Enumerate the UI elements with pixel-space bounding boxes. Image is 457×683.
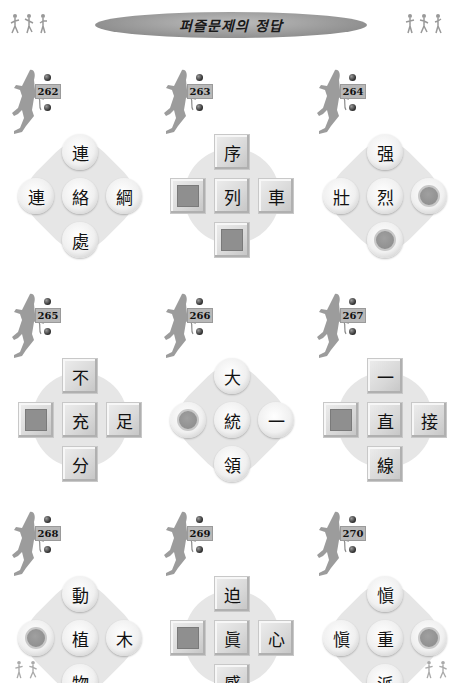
cell-center: 烈 <box>367 178 403 214</box>
dancer-icon <box>424 660 434 680</box>
hanja-character: 眞 <box>224 626 241 651</box>
bullet-dot-icon <box>349 328 356 335</box>
hanja-character: 心 <box>268 626 285 651</box>
bullet-dot-icon <box>44 546 51 553</box>
hanja-character: 足 <box>116 408 133 433</box>
bullet-dot-icon <box>44 74 51 81</box>
bullet-dot-icon <box>349 298 356 305</box>
hanja-character: 直 <box>377 408 394 433</box>
hanja-character: 迫 <box>224 582 241 607</box>
puzzle-264: 264强壯烈 <box>313 66 457 276</box>
hanja-character: 感 <box>224 670 241 683</box>
hanja-character: 强 <box>377 140 394 165</box>
leaning-person-icon <box>160 290 200 362</box>
dancer-icon <box>438 660 448 680</box>
bullet-dot-icon <box>196 74 203 81</box>
dancer-icon <box>10 13 20 35</box>
hanja-character: 大 <box>224 364 241 389</box>
puzzle-board: 强壯烈 <box>323 134 447 258</box>
cell-center: 眞 <box>214 620 250 656</box>
cell-top: 連 <box>62 134 98 170</box>
cell-right: 一 <box>258 402 294 438</box>
hanja-character: 分 <box>72 452 89 477</box>
blank-answer-square <box>330 409 352 431</box>
blank-answer-circle <box>418 185 440 207</box>
bullet-dot-icon <box>196 298 203 305</box>
hanja-character: 序 <box>224 140 241 165</box>
cell-right: 心 <box>258 620 294 656</box>
puzzle-262: 262連連絡綱處 <box>8 66 158 276</box>
cell-left: 愼 <box>323 620 359 656</box>
bullet-dot-icon <box>196 328 203 335</box>
cell-bottom: 分 <box>62 446 98 482</box>
blank-answer-circle <box>418 627 440 649</box>
cell-right: 足 <box>106 402 142 438</box>
puzzle-266: 266大統一領 <box>160 290 310 500</box>
leaning-person-icon <box>8 66 48 138</box>
cell-right: 接 <box>411 402 447 438</box>
puzzle-265: 265不充足分 <box>8 290 158 500</box>
hanja-character: 列 <box>224 184 241 209</box>
hanja-character: 壯 <box>333 184 350 209</box>
cell-right: 車 <box>258 178 294 214</box>
hanja-character: 一 <box>268 408 285 433</box>
hanja-character: 充 <box>72 408 89 433</box>
cell-center: 列 <box>214 178 250 214</box>
cell-center: 充 <box>62 402 98 438</box>
cell-left <box>18 402 54 438</box>
dancer-icon <box>24 13 34 35</box>
cell-left <box>170 178 206 214</box>
puzzle-board: 序列車 <box>170 134 294 258</box>
hanja-character: 物 <box>72 670 89 683</box>
decorative-figures-bottom-left <box>14 660 38 680</box>
hanja-character: 綱 <box>116 184 133 209</box>
leaning-person-icon <box>160 66 200 138</box>
cell-bottom <box>214 222 250 258</box>
blank-answer-square <box>177 185 199 207</box>
cell-left: 連 <box>18 178 54 214</box>
cell-top: 動 <box>62 576 98 612</box>
cell-left <box>18 620 54 656</box>
blank-answer-square <box>221 229 243 251</box>
hanja-character: 植 <box>72 626 89 651</box>
hanja-character: 連 <box>72 140 89 165</box>
puzzle-269: 269迫眞心感 <box>160 508 310 683</box>
dancer-icon <box>433 13 443 35</box>
cell-center: 統 <box>214 402 250 438</box>
cell-bottom <box>367 222 403 258</box>
cell-left <box>323 402 359 438</box>
puzzle-number-badge: 267 <box>340 308 366 323</box>
hanja-character: 連 <box>28 184 45 209</box>
hanja-character: 木 <box>116 626 133 651</box>
puzzle-board: 一直接線 <box>323 358 447 482</box>
cell-top: 迫 <box>214 576 250 612</box>
puzzle-267: 267一直接線 <box>313 290 457 500</box>
puzzle-board: 大統一領 <box>170 358 294 482</box>
blank-answer-circle <box>25 627 47 649</box>
leaning-person-icon <box>8 508 48 580</box>
cell-top: 序 <box>214 134 250 170</box>
dancer-icon <box>14 660 24 680</box>
cell-bottom: 領 <box>214 446 250 482</box>
hanja-character: 愼 <box>333 626 350 651</box>
cell-right <box>411 178 447 214</box>
bullet-dot-icon <box>196 104 203 111</box>
cell-top: 强 <box>367 134 403 170</box>
puzzle-number-badge: 263 <box>187 84 213 99</box>
hanja-character: 接 <box>421 408 438 433</box>
cell-center: 重 <box>367 620 403 656</box>
dancer-icon <box>28 660 38 680</box>
bullet-dot-icon <box>44 516 51 523</box>
leaning-person-icon <box>160 508 200 580</box>
bullet-dot-icon <box>44 104 51 111</box>
puzzle-263: 263序列車 <box>160 66 310 276</box>
cell-bottom: 處 <box>62 222 98 258</box>
bullet-dot-icon <box>349 546 356 553</box>
header-banner: 퍼즐문제의 정답 <box>95 12 367 38</box>
bullet-dot-icon <box>349 516 356 523</box>
puzzle-board: 連連絡綱處 <box>18 134 142 258</box>
puzzle-number-badge: 264 <box>340 84 366 99</box>
dancer-icon <box>38 13 48 35</box>
hanja-character: 線 <box>377 452 394 477</box>
decorative-figures-right <box>405 13 443 35</box>
